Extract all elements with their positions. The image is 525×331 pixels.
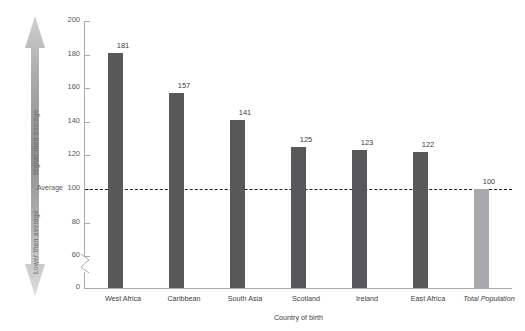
- y-axis-tick-label: 160: [50, 83, 80, 91]
- y-axis-tick-label: 200: [50, 16, 80, 24]
- bar-value-label: 122: [408, 141, 448, 149]
- bar-value-label: 100: [469, 178, 509, 186]
- y-axis-tick-label: 0: [50, 283, 80, 291]
- bar-value-label: 181: [103, 42, 143, 50]
- bar-value-label: 157: [164, 82, 204, 90]
- x-axis-title: Country of birth: [85, 313, 512, 322]
- bar-value-label: 141: [225, 109, 265, 117]
- bar[interactable]: [230, 120, 245, 288]
- bar[interactable]: [413, 152, 428, 288]
- y-axis-tick-label: 120: [50, 150, 80, 158]
- y-axis-tick-label-wrap: 100: [48, 184, 80, 194]
- higher-than-average-label: Higher than average: [32, 109, 39, 175]
- y-axis-tick: [84, 288, 90, 289]
- bar-chart: Higher than average Lower than average A…: [0, 0, 525, 331]
- y-axis-tick-label-wrap: 0: [48, 283, 80, 293]
- lower-than-average-label: Lower than average: [32, 210, 39, 274]
- y-axis-tick-label: 80: [50, 218, 80, 226]
- x-axis-line: [84, 288, 512, 289]
- y-axis-tick-label: 100: [50, 184, 80, 192]
- y-axis-tick-label-wrap: 80: [48, 218, 80, 228]
- x-axis-category-label: Total Population: [449, 294, 525, 303]
- y-axis-tick-label-wrap: 160: [48, 83, 80, 93]
- y-axis-tick-label-wrap: 140: [48, 117, 80, 127]
- bar-value-label: 123: [347, 139, 387, 147]
- bar[interactable]: [291, 147, 306, 288]
- bar-value-label: 125: [286, 136, 326, 144]
- plot-area: 181157141125123122100: [85, 14, 512, 288]
- y-axis-tick-label-wrap: 60: [48, 251, 80, 261]
- y-axis-tick-label: 60: [50, 251, 80, 259]
- y-axis-tick-label-wrap: 200: [48, 16, 80, 26]
- bar[interactable]: [169, 93, 184, 288]
- average-scale-arrow: Higher than average Lower than average: [18, 14, 52, 298]
- bar[interactable]: [352, 150, 367, 288]
- y-axis-tick-label-wrap: 180: [48, 50, 80, 60]
- y-axis-tick-label-wrap: 120: [48, 150, 80, 160]
- bar[interactable]: [474, 189, 489, 288]
- y-axis-tick-label: 180: [50, 50, 80, 58]
- y-axis-tick-label: 140: [50, 117, 80, 125]
- bar[interactable]: [108, 53, 123, 288]
